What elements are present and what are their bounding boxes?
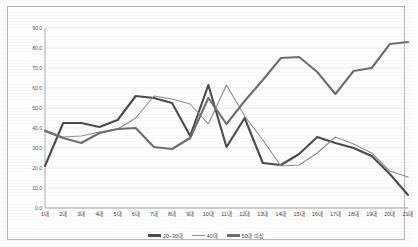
x-axis-tick-label: 12대 (239, 210, 250, 218)
x-axis-tick-label: 15대 (294, 210, 305, 218)
series-line-1 (45, 85, 408, 195)
series-line-2 (45, 85, 408, 177)
chart-figure: 0.010.020.030.040.050.060.070.080.090.0 … (7, 6, 405, 240)
gridlines (45, 28, 408, 208)
x-axis-tick-label: 4대 (95, 210, 103, 218)
legend-item-3[interactable]: 50대 이상 (227, 232, 264, 239)
x-axis-tick-label: 6대 (132, 210, 140, 218)
series-line-3 (45, 42, 408, 149)
x-axis-tick-label: 13대 (257, 210, 268, 218)
x-axis-tick-label: 17대 (330, 210, 341, 218)
x-axis-tick-label: 16대 (312, 210, 323, 218)
x-axis-tick-label: 20대 (384, 210, 395, 218)
x-axis-labels: 1대2대3대4대5대6대7대8대9대10대11대12대13대14대15대16대1… (8, 210, 418, 223)
x-axis-tick-label: 19대 (366, 210, 377, 218)
x-axis-tick-label: 9대 (186, 210, 194, 218)
x-axis-tick-label: 21대 (403, 210, 414, 218)
x-axis-tick-label: 2대 (59, 210, 67, 218)
legend-swatch-icon (227, 234, 240, 236)
legend-swatch-icon (192, 235, 205, 236)
legend-label: 40대 (207, 232, 218, 239)
x-axis-tick-label: 10대 (203, 210, 214, 218)
x-axis-tick-label: 8대 (168, 210, 176, 218)
x-axis-tick-label: 11대 (221, 210, 232, 218)
legend-item-2[interactable]: 40대 (192, 232, 218, 239)
x-axis-tick-label: 1대 (41, 210, 49, 218)
legend-item-1[interactable]: 20~30대 (148, 232, 183, 239)
x-axis-tick-label: 14대 (275, 210, 286, 218)
x-axis-tick-label: 18대 (348, 210, 359, 218)
plot-wrapper: 0.010.020.030.040.050.060.070.080.090.0 … (8, 7, 404, 239)
series-lines (45, 42, 408, 195)
legend-label: 20~30대 (163, 232, 183, 239)
axis-lines (45, 28, 408, 208)
legend-label: 50대 이상 (242, 232, 264, 239)
x-axis-tick-label: 5대 (114, 210, 122, 218)
x-axis-tick-label: 7대 (150, 210, 158, 218)
chart-legend: 20~30대40대50대 이상 (8, 232, 404, 239)
x-axis-tick-label: 3대 (77, 210, 85, 218)
legend-swatch-icon (148, 234, 161, 236)
